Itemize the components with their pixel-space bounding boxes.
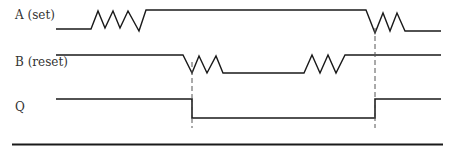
waveform-b <box>56 55 441 73</box>
waveform-q <box>56 99 441 118</box>
waveform-a <box>56 10 441 33</box>
timing-diagram: A (set) B (reset) Q <box>0 0 453 148</box>
waveform-canvas <box>0 0 453 148</box>
